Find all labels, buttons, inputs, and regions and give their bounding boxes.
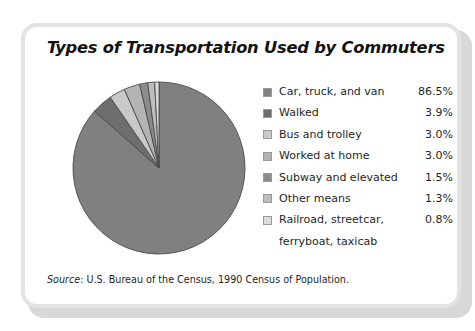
- legend-value-walked: 3.9%: [417, 105, 453, 121]
- legend-value-worked-at-home: 3.0%: [417, 148, 453, 164]
- legend-label-railroad-streetcar-line2: ferryboat, taxicab: [263, 234, 377, 250]
- legend-swatch-subway-and-elevated: [263, 173, 272, 182]
- legend-swatch-walked: [263, 109, 272, 118]
- legend-label-walked: Walked: [279, 105, 417, 121]
- source-note: Source: U.S. Bureau of the Census, 1990 …: [47, 274, 349, 285]
- legend-item-bus-and-trolley[interactable]: Bus and trolley 3.0%: [263, 127, 453, 148]
- legend-label-other-means: Other means: [279, 191, 417, 207]
- legend-label-car-truck-and-van: Car, truck, and van: [279, 84, 417, 100]
- legend-value-railroad-streetcar: 0.8%: [417, 212, 453, 228]
- legend-item-walked[interactable]: Walked 3.9%: [263, 105, 453, 126]
- legend-label-bus-and-trolley: Bus and trolley: [279, 127, 417, 143]
- chart-title: Types of Transportation Used by Commuter…: [47, 38, 439, 57]
- legend-value-bus-and-trolley: 3.0%: [417, 127, 453, 143]
- pie-slices: [73, 82, 245, 254]
- legend-item-worked-at-home[interactable]: Worked at home 3.0%: [263, 148, 453, 169]
- legend-item-car-truck-and-van[interactable]: Car, truck, and van 86.5%: [263, 84, 453, 105]
- pie-chart: [72, 71, 248, 267]
- source-text: : U.S. Bureau of the Census, 1990 Census…: [80, 274, 349, 285]
- legend-label-subway-and-elevated: Subway and elevated: [279, 170, 417, 186]
- legend-label-worked-at-home: Worked at home: [279, 148, 417, 164]
- legend-item-railroad-streetcar[interactable]: Railroad, streetcar, 0.8%: [263, 212, 453, 233]
- legend-value-subway-and-elevated: 1.5%: [417, 170, 453, 186]
- legend-item-railroad-streetcar-line2: ferryboat, taxicab: [263, 234, 453, 254]
- figure-card: Types of Transportation Used by Commuter…: [21, 23, 461, 308]
- legend-item-other-means[interactable]: Other means 1.3%: [263, 191, 453, 212]
- page-top-bleed-text: .. . .. ... .: [80, 0, 400, 7]
- legend-swatch-car-truck-and-van: [263, 88, 272, 97]
- legend-label-railroad-streetcar: Railroad, streetcar,: [279, 212, 417, 228]
- legend-value-other-means: 1.3%: [417, 191, 453, 207]
- legend-value-car-truck-and-van: 86.5%: [417, 84, 453, 100]
- legend-swatch-other-means: [263, 194, 272, 203]
- legend-swatch-worked-at-home: [263, 152, 272, 161]
- legend-swatch-bus-and-trolley: [263, 130, 272, 139]
- chart-legend: Car, truck, and van 86.5% Walked 3.9% Bu…: [263, 84, 453, 254]
- legend-swatch-railroad-streetcar: [263, 216, 272, 225]
- source-label: Source: [47, 274, 80, 285]
- legend-item-subway-and-elevated[interactable]: Subway and elevated 1.5%: [263, 170, 453, 191]
- pie-chart-svg: [72, 71, 248, 267]
